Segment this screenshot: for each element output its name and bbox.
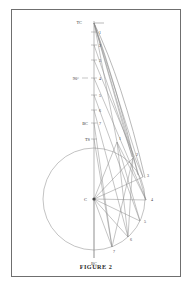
curve-point-6: 6	[130, 237, 132, 242]
station-number-1: 1	[99, 30, 101, 35]
figure-page: TC 90° BC TS C BC 1 2 3 4 5 6 7 1 2 3 4 …	[0, 0, 192, 291]
station-number-2: 2	[99, 43, 101, 48]
curve-point-2: 2	[136, 152, 138, 157]
center-point-marker	[92, 197, 95, 200]
figure-plate: TC 90° BC TS C BC 1 2 3 4 5 6 7 1 2 3 4 …	[11, 9, 181, 277]
curve-point-4: 4	[151, 197, 153, 202]
station-number-4: 4	[99, 76, 101, 81]
center-radii	[94, 142, 146, 258]
station-number-5: 5	[99, 93, 101, 98]
figure-caption: FIGURE 2	[12, 263, 180, 270]
station-number-6: 6	[99, 108, 101, 113]
station-number-7: 7	[99, 121, 101, 126]
deflection-chords-from-tc	[94, 23, 146, 200]
curve-point-1: 1	[119, 136, 121, 141]
label-center: C	[84, 197, 87, 202]
survey-curve-diagram: TC 90° BC TS C BC 1 2 3 4 5 6 7 1 2 3 4 …	[12, 10, 182, 278]
curve-point-5: 5	[144, 219, 146, 224]
station-chords	[94, 45, 146, 247]
curve-point-7: 7	[113, 249, 115, 254]
curve-point-3: 3	[147, 173, 149, 178]
label-tangent-spiral: TS	[85, 137, 91, 142]
label-tangent-top: TC	[76, 20, 82, 25]
label-right-angle: 90°	[73, 76, 79, 81]
station-number-3: 3	[99, 58, 101, 63]
label-begin-curve: BC	[82, 121, 88, 126]
